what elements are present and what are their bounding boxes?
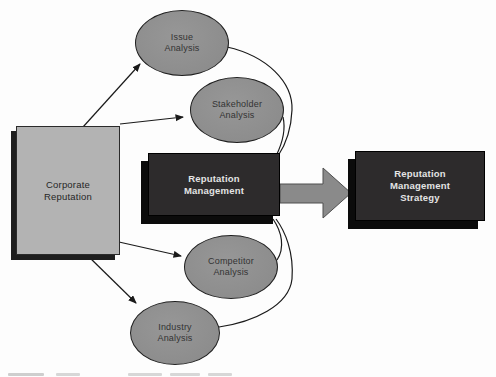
arrow-corporate-to-competitor [119, 242, 181, 256]
arrow-corporate-to-industry [87, 255, 136, 303]
competitor-analysis-label: Competitor Analysis [208, 256, 254, 278]
diagram-canvas: Corporate Reputation Issue Analysis Stak… [0, 0, 496, 377]
node-competitor-analysis: Competitor Analysis [184, 235, 278, 299]
issue-analysis-label: Issue Analysis [164, 32, 199, 54]
node-corporate-reputation: Corporate Reputation [16, 126, 120, 255]
node-issue-analysis: Issue Analysis [135, 10, 229, 76]
stakeholder-analysis-label: Stakeholder Analysis [212, 99, 262, 121]
caption-text-sliver [56, 373, 80, 376]
industry-analysis-label: Industry Analysis [157, 322, 192, 344]
caption-text-sliver [8, 373, 44, 376]
node-stakeholder-analysis: Stakeholder Analysis [190, 77, 284, 143]
caption-text-sliver [208, 373, 232, 376]
big-arrow-management-to-strategy [280, 168, 351, 218]
reputation-management-strategy-label: Reputation Management Strategy [390, 168, 450, 204]
caption-text-sliver [128, 373, 162, 376]
node-reputation-management-strategy: Reputation Management Strategy [355, 151, 485, 221]
arrow-corporate-to-issue [83, 64, 140, 127]
reputation-management-label: Reputation Management [184, 173, 244, 197]
node-reputation-management: Reputation Management [148, 153, 280, 216]
caption-text-sliver [170, 373, 200, 376]
arrow-corporate-to-stakeholder [120, 117, 183, 124]
node-industry-analysis: Industry Analysis [130, 301, 220, 365]
corporate-reputation-label: Corporate Reputation [44, 179, 92, 203]
